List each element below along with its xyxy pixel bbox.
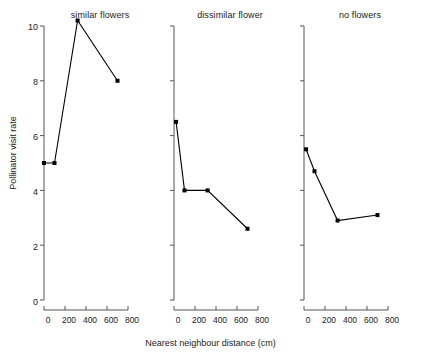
panel-0-data-point — [116, 79, 120, 83]
panel-2-data-point — [313, 169, 317, 173]
series-group — [42, 19, 380, 231]
panel-0-data-point — [76, 19, 80, 23]
plot-canvas — [0, 0, 421, 360]
panel-1-data-point — [183, 188, 187, 192]
panel-2-series-line — [306, 149, 377, 220]
panel-2-data-point — [304, 147, 308, 151]
panel-1-data-point — [206, 188, 210, 192]
panel-0-data-point — [42, 161, 46, 165]
panel-0-data-point — [53, 161, 57, 165]
panel-1-series-line — [176, 122, 247, 229]
pollinator-visit-rate-figure: Pollinator visit rate Nearest neighbour … — [0, 0, 421, 360]
panel-1-data-point — [246, 227, 250, 231]
panel-0-series-line — [44, 21, 118, 163]
axes-group — [40, 26, 388, 310]
panel-2-data-point — [376, 213, 380, 217]
panel-2-data-point — [336, 219, 340, 223]
panel-1-data-point — [174, 120, 178, 124]
